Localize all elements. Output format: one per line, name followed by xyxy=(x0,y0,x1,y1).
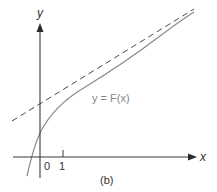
function-graph-diagram: y x 0 1 y = F(x) (b) xyxy=(0,0,217,192)
x-axis-label: x xyxy=(199,150,207,164)
curve-label: y = F(x) xyxy=(92,92,130,104)
figure-caption: (b) xyxy=(100,174,113,186)
origin-label: 0 xyxy=(44,160,50,172)
x-tick-1-label: 1 xyxy=(59,160,65,172)
y-axis-label: y xyxy=(36,6,44,20)
x-axis-arrow-icon xyxy=(188,154,197,161)
y-axis-arrow-icon xyxy=(37,23,44,32)
